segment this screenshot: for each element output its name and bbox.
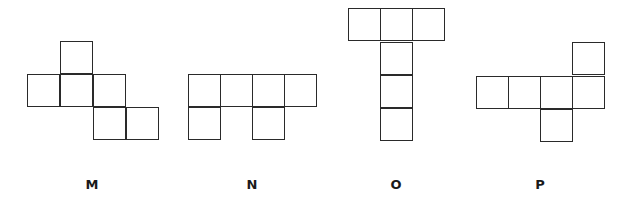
square-cell [540, 76, 573, 109]
shape-label-n: N [232, 177, 272, 192]
square-cell [252, 107, 285, 140]
shape-label-p: P [520, 177, 560, 192]
square-cell [572, 76, 605, 109]
square-cell [540, 109, 573, 142]
square-cell [380, 42, 413, 75]
square-cell [284, 74, 317, 107]
square-cell [380, 75, 413, 108]
square-cell [93, 107, 126, 140]
shape-label-o: O [376, 177, 416, 192]
shape-label-m: M [72, 177, 112, 192]
square-cell [476, 76, 509, 109]
square-cell [380, 8, 413, 41]
square-cell [412, 8, 445, 41]
square-cell [220, 74, 253, 107]
square-cell [188, 74, 221, 107]
square-cell [572, 42, 605, 75]
square-cell [380, 108, 413, 141]
square-cell [188, 107, 221, 140]
square-cell [348, 8, 381, 41]
square-cell [508, 76, 541, 109]
square-cell [60, 41, 93, 74]
square-cell [60, 74, 93, 107]
square-cell [252, 74, 285, 107]
square-cell [93, 74, 126, 107]
square-cell [27, 74, 60, 107]
square-cell [126, 107, 159, 140]
